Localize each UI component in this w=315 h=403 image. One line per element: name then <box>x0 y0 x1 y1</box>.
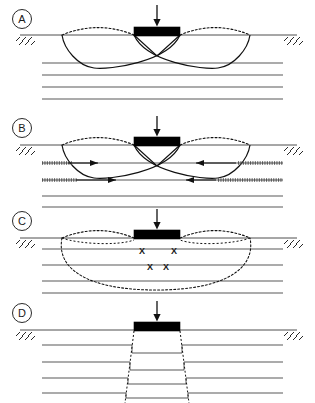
ground-hatch-left-d <box>16 332 35 340</box>
panel-label-letter: C <box>18 215 26 227</box>
panel-c-inner-arc-right <box>180 238 250 244</box>
load-arrow-b <box>153 116 160 137</box>
hatch-tick <box>22 332 26 336</box>
hatch-tick <box>19 336 23 340</box>
force-arrow-b-2 <box>196 160 236 166</box>
load-arrow-head <box>153 314 160 322</box>
hatch-tick <box>296 147 300 151</box>
hatch-tick <box>28 332 32 336</box>
ground-hatch-left-b <box>16 147 35 155</box>
shear-x-mark-1: X <box>171 246 177 256</box>
hatch-tick <box>22 240 26 244</box>
panel-d-punch-zone <box>42 345 283 398</box>
hatch-tick <box>299 336 303 340</box>
hatch-tick <box>31 244 35 248</box>
shear-x-mark-3: X <box>163 262 169 272</box>
panel-a-heave-left <box>62 28 134 35</box>
ground-hatch-right-c <box>284 240 303 248</box>
hatch-tick <box>293 41 297 45</box>
panel-c-failure-bulb <box>61 238 250 290</box>
load-arrow-d <box>153 301 160 322</box>
hatch-tick <box>290 147 294 151</box>
hatch-tick <box>25 41 29 45</box>
footing-c <box>134 230 180 239</box>
ground-hatch-right-a <box>284 37 303 45</box>
shear-x-mark-2: X <box>147 262 153 272</box>
panel-b-heave-right <box>180 138 250 145</box>
panel-b-heave-left <box>62 138 134 145</box>
soil-layers-a <box>42 63 283 99</box>
hatch-tick <box>31 151 35 155</box>
hatch-tick <box>19 41 23 45</box>
ground-hatch-right-b <box>284 147 303 155</box>
hatch-tick <box>299 41 303 45</box>
hatch-tick <box>299 151 303 155</box>
punch-shear-plane-left <box>125 331 134 403</box>
load-arrow-c <box>153 209 160 230</box>
soil-layers-b <box>42 163 283 207</box>
hatch-tick <box>284 37 288 41</box>
hatch-tick <box>16 332 20 336</box>
hatch-tick <box>296 37 300 41</box>
panel-label-letter: D <box>18 307 26 319</box>
hatch-tick <box>290 240 294 244</box>
hatch-tick <box>293 336 297 340</box>
hatch-tick <box>25 244 29 248</box>
hatch-tick <box>28 147 32 151</box>
panel-c-inner-arc-left <box>62 238 134 244</box>
bearing-capacity-failure-figure: ABCXXXXD <box>0 0 315 403</box>
panel-label-letter: B <box>18 122 25 134</box>
hatch-tick <box>287 151 291 155</box>
hatch-tick <box>287 336 291 340</box>
load-arrow-a <box>153 5 160 27</box>
panel-label-c: C <box>13 212 32 231</box>
hatch-tick <box>284 147 288 151</box>
panel-label-d: D <box>13 304 32 323</box>
load-arrow-head <box>153 19 160 27</box>
footing-d <box>134 322 180 331</box>
panel-c-heave-left <box>62 231 134 238</box>
force-arrow-head <box>186 177 194 183</box>
hatch-tick <box>290 37 294 41</box>
force-arrow-head <box>90 160 98 166</box>
panel-label-a: A <box>13 10 32 29</box>
failure-modes-diagram: ABCXXXXD <box>0 0 315 403</box>
ground-hatch-left-c <box>16 240 35 248</box>
hatch-tick <box>284 240 288 244</box>
panel-label-b: B <box>13 119 32 138</box>
panel-c-heave-right <box>180 231 250 238</box>
ground-hatch-left-a <box>16 37 35 45</box>
hatch-tick <box>28 240 32 244</box>
hatch-tick <box>299 244 303 248</box>
hatch-tick <box>290 332 294 336</box>
hatch-tick <box>293 244 297 248</box>
hatch-tick <box>287 41 291 45</box>
force-arrow-head <box>196 160 204 166</box>
hatch-tick <box>287 244 291 248</box>
hatch-tick <box>16 147 20 151</box>
hatch-tick <box>293 151 297 155</box>
panel-a-heave-right <box>180 28 250 35</box>
load-arrow-head <box>153 129 160 137</box>
hatch-tick <box>296 332 300 336</box>
panel-label-letter: A <box>18 13 26 25</box>
ground-hatch-right-d <box>284 332 303 340</box>
hatch-tick <box>22 147 26 151</box>
hatch-tick <box>19 151 23 155</box>
punch-shear-plane-right <box>180 331 189 403</box>
hatch-tick <box>284 332 288 336</box>
hatch-tick <box>16 240 20 244</box>
hatch-tick <box>19 244 23 248</box>
footing-b <box>134 137 180 146</box>
shear-x-mark-0: X <box>139 246 145 256</box>
hatch-tick <box>31 336 35 340</box>
hatch-tick <box>25 336 29 340</box>
hatch-tick <box>296 240 300 244</box>
footing-a <box>134 27 180 36</box>
hatch-tick <box>22 37 26 41</box>
hatch-tick <box>25 151 29 155</box>
hatch-tick <box>28 37 32 41</box>
hatch-tick <box>31 41 35 45</box>
load-arrow-head <box>153 222 160 230</box>
hatch-tick <box>16 37 20 41</box>
